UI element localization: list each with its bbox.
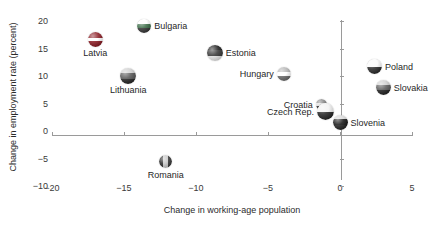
data-point-label: Estonia bbox=[226, 48, 256, 58]
x-tick bbox=[124, 132, 125, 136]
sphere-shading bbox=[333, 115, 348, 130]
x-tick-label: −10 bbox=[188, 183, 203, 193]
data-point[interactable]: Bulgaria bbox=[137, 19, 151, 33]
y-tick bbox=[340, 159, 344, 160]
y-tick-label: −5 bbox=[38, 154, 48, 164]
x-tick-label: 0 bbox=[337, 183, 342, 193]
data-point[interactable]: Slovenia bbox=[333, 115, 348, 130]
y-tick-label: −10 bbox=[33, 181, 48, 191]
data-point[interactable]: Lithuania bbox=[120, 68, 136, 84]
country-flag-marker-icon bbox=[88, 32, 103, 47]
data-point-label: Slovakia bbox=[394, 82, 428, 92]
y-tick bbox=[340, 21, 344, 22]
data-point[interactable]: Slovakia bbox=[376, 80, 391, 95]
country-flag-marker-icon bbox=[333, 115, 348, 130]
sphere-shading bbox=[159, 155, 172, 168]
scatter-chart: −20−15−10−505 −10−505101520 LatviaBulgar… bbox=[0, 0, 434, 235]
x-tick bbox=[196, 132, 197, 136]
data-point[interactable]: Latvia bbox=[88, 32, 103, 47]
data-point-label: Romania bbox=[148, 169, 184, 179]
y-tick-label: 20 bbox=[38, 16, 48, 26]
data-point-label: Lithuania bbox=[110, 85, 147, 95]
country-flag-marker-icon bbox=[376, 80, 391, 95]
data-point[interactable]: Estonia bbox=[207, 45, 223, 61]
data-point-label: Poland bbox=[385, 61, 413, 71]
y-axis-title: Change in employment rate (percent) bbox=[8, 22, 18, 172]
x-tick bbox=[412, 132, 413, 136]
data-point[interactable]: Hungary bbox=[277, 67, 291, 81]
x-tick-label: −15 bbox=[116, 183, 131, 193]
sphere-shading bbox=[207, 45, 223, 61]
sphere-shading bbox=[376, 80, 391, 95]
y-tick-label: 15 bbox=[38, 44, 48, 54]
sphere-shading bbox=[120, 68, 136, 84]
y-tick-label: 0 bbox=[43, 126, 48, 136]
data-point[interactable]: Romania bbox=[159, 155, 172, 168]
country-flag-marker-icon bbox=[207, 45, 223, 61]
data-point-label: Slovenia bbox=[351, 117, 386, 127]
y-tick-label: 5 bbox=[43, 99, 48, 109]
plot-area: −20−15−10−505 −10−505101520 LatviaBulgar… bbox=[0, 0, 434, 235]
x-axis-line bbox=[52, 135, 412, 136]
data-point-label: Latvia bbox=[83, 48, 107, 58]
data-point-label: Bulgaria bbox=[154, 21, 187, 31]
country-flag-marker-icon bbox=[159, 155, 172, 168]
data-point-label: Czech Rep. bbox=[267, 107, 314, 117]
sphere-shading bbox=[137, 19, 151, 33]
y-tick-label: 10 bbox=[38, 71, 48, 81]
country-flag-marker-icon bbox=[137, 19, 151, 33]
data-point-label: Hungary bbox=[240, 69, 274, 79]
sphere-shading bbox=[367, 59, 382, 74]
y-tick bbox=[340, 186, 344, 187]
y-tick bbox=[340, 76, 344, 77]
sphere-shading bbox=[277, 67, 291, 81]
x-tick bbox=[268, 132, 269, 136]
y-axis-line bbox=[341, 20, 342, 180]
x-tick bbox=[52, 132, 53, 136]
x-axis-title: Change in working-age population bbox=[52, 205, 412, 215]
data-point[interactable]: Poland bbox=[367, 59, 382, 74]
country-flag-marker-icon bbox=[277, 67, 291, 81]
y-tick bbox=[340, 49, 344, 50]
country-flag-marker-icon bbox=[367, 59, 382, 74]
sphere-shading bbox=[88, 32, 103, 47]
x-tick-label: 5 bbox=[409, 183, 414, 193]
y-tick bbox=[340, 104, 344, 105]
x-tick bbox=[340, 132, 341, 136]
country-flag-marker-icon bbox=[120, 68, 136, 84]
x-tick-label: −5 bbox=[263, 183, 273, 193]
